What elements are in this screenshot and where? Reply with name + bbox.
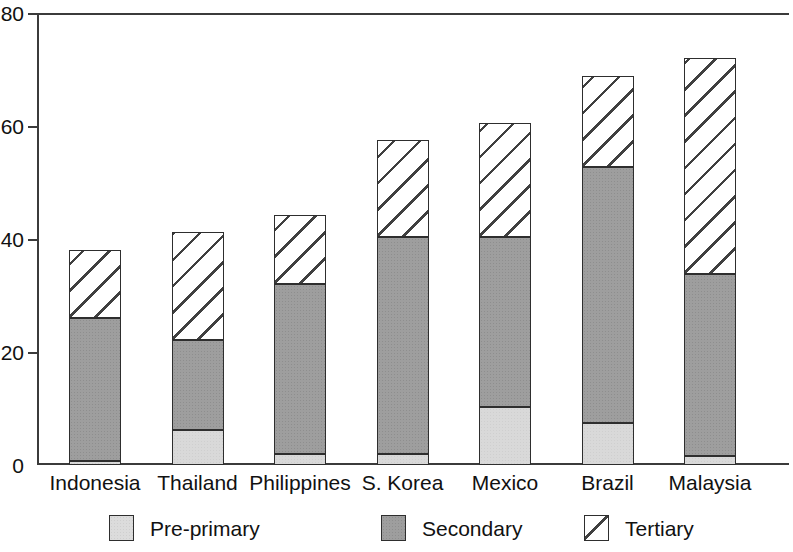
x-axis-label-indonesia: Indonesia [41, 470, 148, 496]
bar-philippines [274, 215, 326, 465]
legend-label: Secondary [422, 518, 522, 539]
bar-indonesia [69, 250, 121, 465]
y-axis-label-0: 0 [0, 455, 24, 476]
bar-malaysia [684, 58, 736, 465]
y-axis-label-80: 80 [0, 3, 24, 24]
stacked-bar-chart: 80 60 40 20 0 IndonesiaThailandPhilippin… [0, 0, 793, 552]
bar-segment-tertiary [377, 140, 429, 237]
y-axis-label-20: 20 [0, 342, 24, 363]
bar-segment-secondary [172, 340, 224, 430]
legend-item-tertiary: Tertiary [584, 512, 694, 544]
x-axis-label-malaysia: Malaysia [656, 470, 763, 496]
chart-legend: Pre-primarySecondaryTertiary [0, 512, 793, 552]
legend-swatch-secondary-icon [381, 515, 406, 541]
bar-segment-tertiary [274, 215, 326, 284]
legend-swatch-tertiary-icon [584, 515, 609, 541]
bar-segment-pre-primary [377, 454, 429, 465]
bars-layer [37, 13, 789, 465]
bar-thailand [172, 232, 224, 465]
legend-item-pre-primary: Pre-primary [109, 512, 260, 544]
y-tick-40 [28, 239, 37, 241]
bar-segment-tertiary [479, 123, 531, 237]
x-axis-label-mexico: Mexico [451, 470, 558, 496]
legend-label: Tertiary [625, 518, 694, 539]
bar-s-korea [377, 140, 429, 465]
y-tick-80 [28, 13, 37, 15]
bar-segment-pre-primary [684, 456, 736, 465]
bar-brazil [582, 76, 634, 465]
bar-segment-secondary [479, 237, 531, 407]
legend-label: Pre-primary [150, 518, 260, 539]
bar-mexico [479, 123, 531, 465]
bar-segment-pre-primary [69, 461, 121, 465]
bar-segment-tertiary [172, 232, 224, 339]
x-axis-category-labels: IndonesiaThailandPhilippinesS. KoreaMexi… [37, 470, 789, 502]
bar-segment-secondary [684, 274, 736, 456]
bar-segment-tertiary [69, 250, 121, 318]
y-tick-20 [28, 352, 37, 354]
y-axis-label-40: 40 [0, 229, 24, 250]
y-axis-label-60: 60 [0, 116, 24, 137]
y-tick-60 [28, 126, 37, 128]
legend-swatch-pre-primary-icon [109, 515, 134, 541]
bar-segment-tertiary [582, 76, 634, 166]
bar-segment-pre-primary [582, 423, 634, 465]
bar-segment-pre-primary [172, 430, 224, 465]
x-axis-label-brazil: Brazil [554, 470, 661, 496]
bar-segment-pre-primary [274, 454, 326, 465]
bar-segment-tertiary [684, 58, 736, 274]
x-axis-label-philippines: Philippines [246, 470, 353, 496]
bar-segment-secondary [69, 318, 121, 461]
x-axis-label-thailand: Thailand [144, 470, 251, 496]
bar-segment-secondary [377, 237, 429, 454]
bar-segment-pre-primary [479, 407, 531, 465]
legend-item-secondary: Secondary [381, 512, 522, 544]
x-axis-label-s-korea: S. Korea [349, 470, 456, 496]
bar-segment-secondary [582, 167, 634, 424]
bar-segment-secondary [274, 284, 326, 454]
